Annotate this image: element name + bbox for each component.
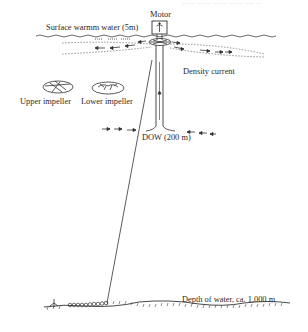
- density-current-left: [62, 42, 152, 54]
- density-current-label: Density current: [183, 68, 235, 76]
- surface-discharge-impeller: [149, 34, 171, 46]
- lower-impeller-label: Lower impeller: [81, 98, 133, 106]
- diagram-canvas: [0, 0, 308, 332]
- surface-water-label: Surface warmm water (5m): [46, 24, 138, 32]
- flow-arrows-right: [172, 42, 232, 54]
- depth-label: Depth of water, ca. 1,000 m: [182, 296, 275, 304]
- upper-impeller-label: Upper impeller: [20, 98, 71, 106]
- density-current-right: [170, 44, 265, 57]
- motor-label: Motor: [150, 11, 171, 19]
- upper-impeller: [43, 81, 73, 93]
- vertical-pipe: [146, 45, 175, 131]
- sea-surface-line: [36, 35, 276, 37]
- lower-impeller: [92, 82, 124, 94]
- motor: [152, 21, 167, 34]
- dow-label: DOW (200 m): [142, 134, 191, 142]
- flow-arrows-left: [95, 39, 146, 50]
